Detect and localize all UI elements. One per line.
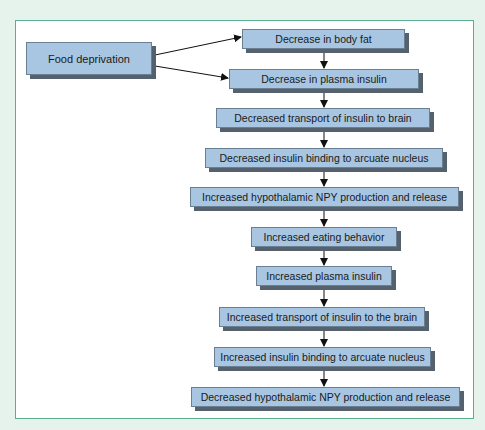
node-food-deprivation: Food deprivation bbox=[26, 42, 152, 75]
node-increased-eating: Increased eating behavior bbox=[251, 227, 397, 247]
node-decrease-plasma-insulin: Decrease in plasma insulin bbox=[229, 69, 419, 89]
node-increased-npy: Increased hypothalamic NPY production an… bbox=[190, 187, 459, 207]
node-decreased-insulin-binding: Decreased insulin binding to arcuate nuc… bbox=[205, 148, 443, 168]
node-decreased-npy: Decreased hypothalamic NPY production an… bbox=[191, 387, 460, 407]
node-decreased-transport-insulin: Decreased transport of insulin to brain bbox=[216, 108, 430, 128]
node-increased-transport-insulin: Increased transport of insulin to the br… bbox=[219, 307, 425, 327]
node-decrease-body-fat: Decrease in body fat bbox=[242, 29, 405, 49]
arrow-food-to-body-fat bbox=[155, 37, 241, 55]
node-increased-plasma-insulin: Increased plasma insulin bbox=[256, 266, 392, 286]
node-increased-insulin-binding: Increased insulin binding to arcuate nuc… bbox=[214, 347, 431, 367]
arrow-food-to-plasma-insulin bbox=[155, 66, 228, 78]
